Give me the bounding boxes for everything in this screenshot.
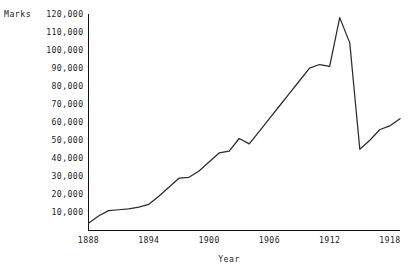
x-tick-label: 1912: [319, 235, 340, 245]
chart-container: Marks 10,00020,00030,00040,00050,00060,0…: [0, 0, 408, 268]
x-tick-label: 1900: [198, 235, 219, 245]
x-axis-title: Year: [218, 254, 240, 264]
y-tick-label: 40,000: [52, 153, 84, 163]
x-tick-label: 1888: [78, 235, 99, 245]
y-tick-label: 60,000: [52, 117, 84, 127]
y-tick-label: 110,000: [46, 27, 83, 37]
y-tick-label: 80,000: [52, 81, 84, 91]
x-tick-label: 1894: [138, 235, 159, 245]
y-tick-label: 50,000: [52, 135, 84, 145]
y-tick-label: 90,000: [52, 63, 84, 73]
y-tick-label: 100,000: [46, 45, 83, 55]
y-tick-label: 70,000: [52, 99, 84, 109]
y-tick-label: 30,000: [52, 171, 84, 181]
y-tick-label: 10,000: [52, 207, 84, 217]
y-axis-title: Marks: [4, 9, 31, 19]
x-tick-label: 1918: [379, 235, 400, 245]
y-tick-label: 120,000: [46, 9, 83, 19]
chart-background: [0, 0, 408, 268]
line-chart: Marks 10,00020,00030,00040,00050,00060,0…: [0, 0, 408, 268]
y-tick-label: 20,000: [52, 189, 84, 199]
x-tick-label: 1906: [259, 235, 280, 245]
